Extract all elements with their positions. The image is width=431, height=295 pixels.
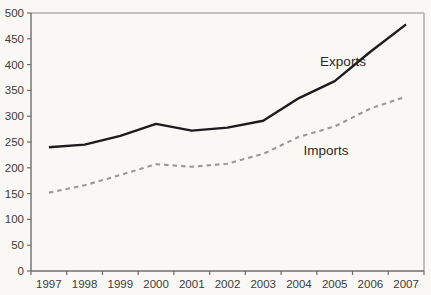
y-axis-tick-label: 150 [5,188,24,200]
y-axis-tick-label: 200 [5,162,24,174]
exports-series-label: Exports [320,54,366,69]
x-axis-tick-label: 1999 [108,278,134,290]
y-axis-tick-label: 450 [5,33,24,45]
x-axis-tick-label: 2005 [322,278,348,290]
y-axis-tick-label: 300 [5,110,24,122]
y-axis-tick-label: 250 [5,136,24,148]
y-axis-tick-label: 50 [11,239,24,251]
trade-line-chart-figure: 0501001502002503003504004505001997199819… [0,0,431,295]
x-axis-tick-label: 2003 [250,278,276,290]
x-axis-tick-label: 2006 [358,278,384,290]
x-axis-tick-label: 2001 [179,278,205,290]
exports-imports-line-chart: 0501001502002503003504004505001997199819… [0,0,431,295]
y-axis-tick-label: 350 [5,84,24,96]
x-axis-tick-label: 2000 [143,278,169,290]
y-axis-tick-label: 400 [5,59,24,71]
x-axis-tick-label: 1997 [36,278,62,290]
x-axis-tick-label: 2007 [393,278,419,290]
y-axis-tick-label: 500 [5,7,24,19]
x-axis-tick-label: 2002 [215,278,241,290]
exports-line [49,24,406,147]
y-axis-tick-label: 100 [5,213,24,225]
imports-series-label: Imports [303,143,348,158]
x-axis-tick-label: 1998 [72,278,98,290]
y-axis-tick-label: 0 [18,265,24,277]
imports-line [49,97,406,193]
x-axis-tick-label: 2004 [286,278,312,290]
